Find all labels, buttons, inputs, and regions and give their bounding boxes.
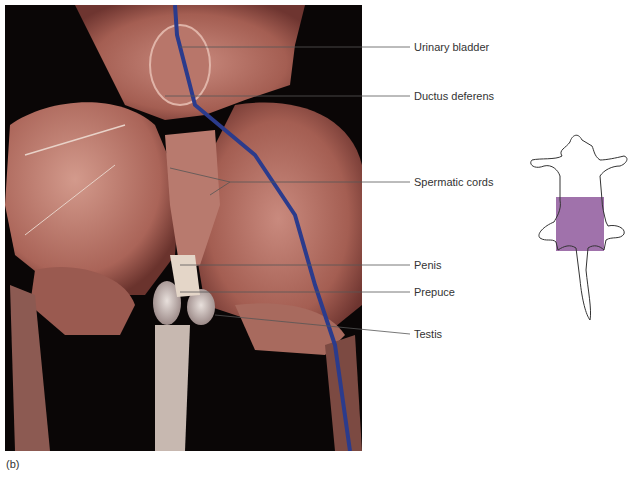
label-spermatic-cords: Spermatic cords [414,176,493,188]
label-ductus-deferens: Ductus deferens [414,90,494,102]
label-penis: Penis [414,259,442,271]
label-urinary-bladder: Urinary bladder [414,41,489,53]
label-prepuce: Prepuce [414,286,455,298]
label-testis: Testis [414,328,442,340]
orientation-inset-icon [520,130,633,330]
panel-letter: (b) [6,458,19,470]
